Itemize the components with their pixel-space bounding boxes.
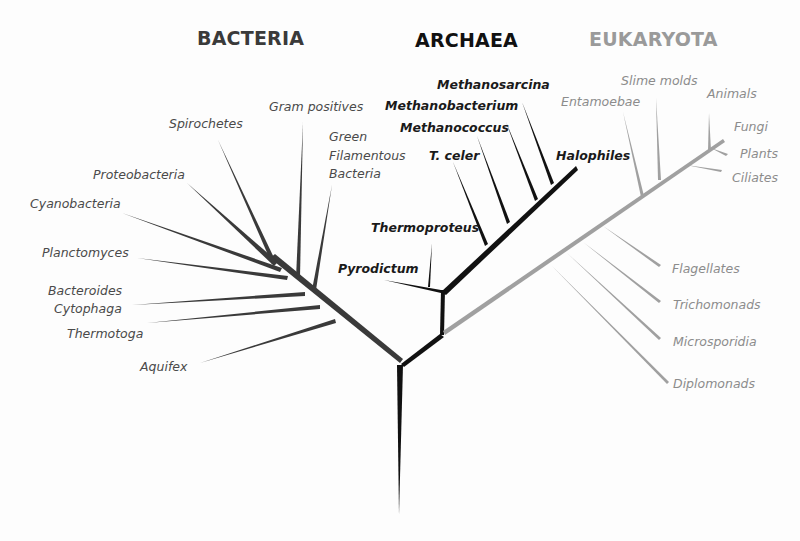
label-slime-molds: Slime molds [621,73,697,88]
label-pyrodictum: Pyrodictum [338,261,419,276]
label-proteobacteria: Proteobacteria [93,167,185,182]
label-trichomonads: Trichomonads [673,297,761,312]
label-microsporidia: Microsporidia [673,334,757,349]
label-bacteroides: Bacteroides [48,283,122,298]
label-halophiles: Halophiles [556,148,630,163]
label-thermotoga: Thermotoga [67,326,143,341]
label-green-filamentous-2: Filamentous [329,148,406,163]
label-plants: Plants [740,146,778,161]
label-flagellates: Flagellates [672,261,740,276]
label-methanobacterium: Methanobacterium [385,98,518,113]
domain-title-archaea: ARCHAEA [415,29,518,51]
label-green-filamentous-3: Bacteria [329,166,381,181]
label-cyanobacteria: Cyanobacteria [30,196,121,211]
phylogenetic-tree-diagram: BACTERIA ARCHAEA EUKARYOTA Spirochetes G… [0,0,800,541]
label-green-filamentous-1: Green [329,129,367,144]
label-gram-positives: Gram positives [269,99,363,114]
domain-title-eukaryota: EUKARYOTA [589,28,718,50]
label-t-celer: T. celer [429,148,479,163]
label-fungi: Fungi [734,119,768,134]
label-thermoproteus: Thermoproteus [371,220,479,235]
root-trunk [397,365,403,515]
label-planctomyces: Planctomyces [42,245,129,260]
label-aquifex: Aquifex [140,359,187,374]
label-diplomonads: Diplomonads [673,376,755,391]
label-cytophaga: Cytophaga [54,301,122,316]
label-methanococcus: Methanococcus [400,120,509,135]
label-animals: Animals [707,86,757,101]
label-spirochetes: Spirochetes [169,116,243,131]
domain-title-bacteria: BACTERIA [197,27,304,49]
label-ciliates: Ciliates [732,170,778,185]
label-entamoebae: Entamoebae [561,94,640,109]
label-methanosarcina: Methanosarcina [437,77,550,92]
